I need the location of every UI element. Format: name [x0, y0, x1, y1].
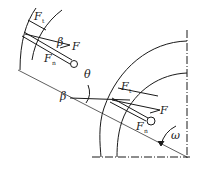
lower-Fn-label: F	[135, 120, 144, 133]
upper-Fn-label: F	[43, 52, 52, 65]
upper-Fn-subscript: n	[52, 59, 56, 66]
upper-Ft-label: F	[33, 10, 42, 23]
lower-F-arrow	[112, 100, 160, 110]
lower-F-label: F	[159, 104, 168, 117]
upper-beta-label: β	[56, 36, 63, 49]
omega-label: ω	[171, 129, 180, 142]
lower-Fn-arrow	[150, 110, 160, 113]
lower-Fn-subscript: n	[144, 127, 148, 134]
theta-label: θ	[84, 68, 91, 81]
middle-reference-line	[70, 98, 130, 100]
upper-Ft-subscript: t	[42, 17, 45, 24]
middle-beta-label: β	[59, 90, 66, 103]
lower-Ft-label: F	[120, 80, 129, 93]
upper-F-label: F	[71, 40, 80, 53]
theta-arc	[86, 85, 90, 103]
force-diagram: F t F F n β θ β F t F F n ω	[0, 0, 197, 169]
